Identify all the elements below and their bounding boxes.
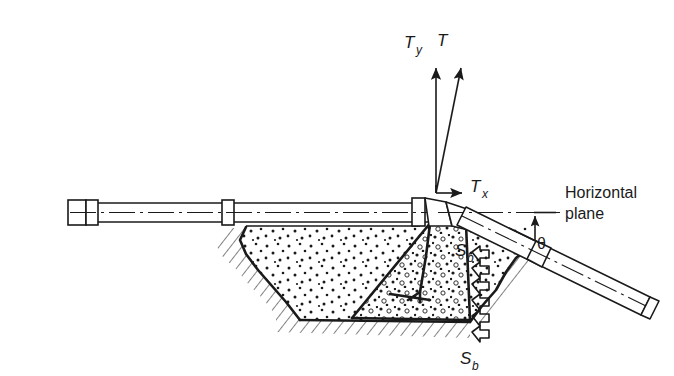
label-theta: θ <box>537 235 546 252</box>
thrust-block-diagram: T y T T x Horizontal plane θ S b S b <box>0 0 674 376</box>
label-Sb-lower: S <box>460 349 472 368</box>
label-Sb-lower-subscript: b <box>472 359 479 373</box>
diagram-canvas: T y T T x Horizontal plane θ S b S b <box>0 0 674 376</box>
label-T: T <box>437 31 449 50</box>
label-Sb-upper: S <box>455 241 467 260</box>
label-Ty-subscript: y <box>415 43 423 57</box>
label-horizontal-plane-line2: plane <box>565 205 604 222</box>
label-Tx: T <box>470 177 482 196</box>
label-Ty: T <box>404 33 416 52</box>
label-horizontal-plane-line1: Horizontal <box>565 184 637 201</box>
label-Tx-subscript: x <box>481 187 489 201</box>
horizontal-pipe <box>68 198 438 226</box>
label-Sb-upper-subscript: b <box>467 251 474 265</box>
